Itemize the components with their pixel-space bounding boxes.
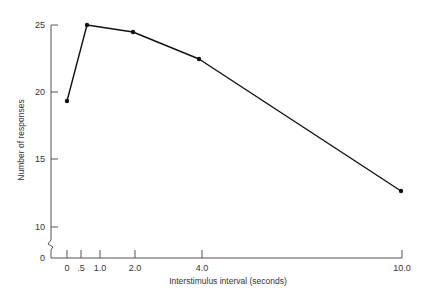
y-tick-label: 0 bbox=[40, 253, 45, 263]
y-tick-label: 25 bbox=[35, 20, 45, 30]
x-tick-label: .5 bbox=[77, 263, 85, 273]
y-tick-label: 15 bbox=[35, 154, 45, 164]
data-point-marker bbox=[85, 23, 89, 27]
x-tick-label: 2.0 bbox=[129, 263, 142, 273]
x-tick-label: 1.0 bbox=[94, 263, 107, 273]
series-line bbox=[67, 25, 401, 191]
x-tick-label: 10.0 bbox=[393, 263, 411, 273]
x-tick-label: 0 bbox=[64, 263, 69, 273]
ticks: 0101520250.51.02.04.010.0 bbox=[35, 20, 411, 273]
data-point-marker bbox=[65, 99, 69, 103]
x-tick-label: 4.0 bbox=[196, 263, 209, 273]
data-point-marker bbox=[399, 189, 403, 193]
y-tick-label: 10 bbox=[35, 222, 45, 232]
y-axis-break bbox=[48, 240, 53, 258]
y-tick-label: 20 bbox=[35, 87, 45, 97]
x-axis-title: Interstimulus interval (seconds) bbox=[169, 276, 287, 286]
data-point-marker bbox=[131, 30, 135, 34]
data-point-marker bbox=[197, 57, 201, 61]
y-axis-title: Number of responses bbox=[16, 99, 26, 180]
line-chart: 0101520250.51.02.04.010.0 Interstimulus … bbox=[0, 0, 432, 306]
data-series bbox=[65, 23, 403, 193]
axes bbox=[48, 25, 402, 258]
